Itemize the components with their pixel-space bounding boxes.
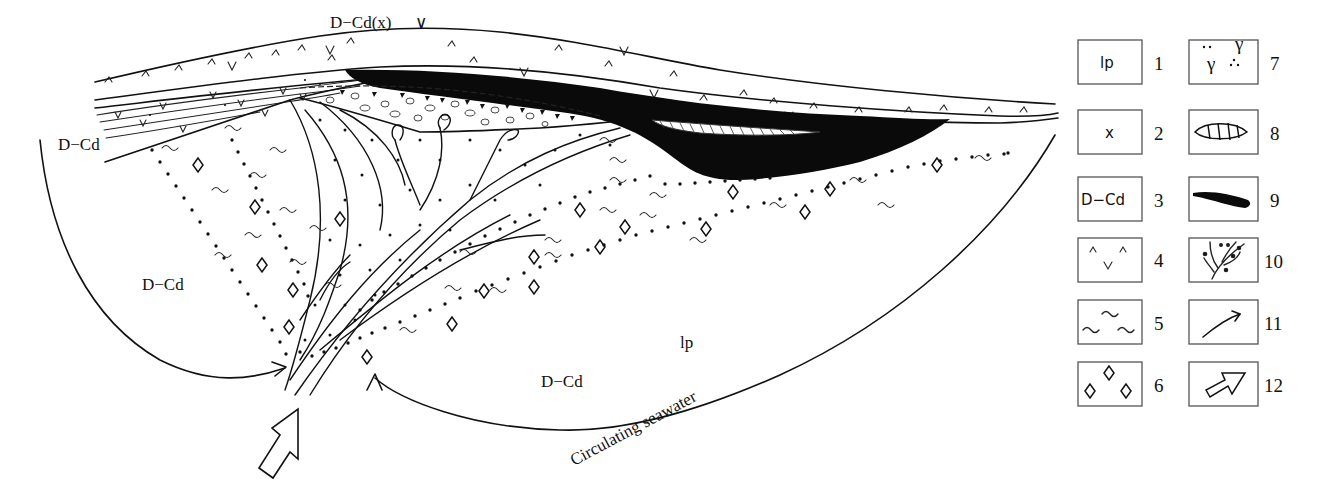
legend-item-8: 8 — [1189, 110, 1280, 154]
legend-symbol-d-cd: D−Cd — [1081, 191, 1125, 209]
legend-num: 5 — [1154, 313, 1164, 334]
flow-arrowhead-left — [272, 362, 286, 376]
legend-num: 4 — [1154, 250, 1164, 271]
legend-item-1: lp 1 — [1078, 40, 1164, 84]
legend-symbol-x: x — [1105, 124, 1114, 142]
svg-text:γ: γ — [1206, 53, 1215, 74]
legend-num: 3 — [1154, 190, 1164, 211]
legend-item-2: x 2 — [1078, 110, 1164, 154]
hydrothermal-upflow-arrow — [259, 409, 298, 478]
label-top-volcanic: D−Cd(x) — [330, 13, 392, 32]
svg-text:γ: γ — [1234, 33, 1243, 54]
legend-num: 10 — [1264, 251, 1283, 272]
legend-item-5: 5 — [1078, 300, 1164, 344]
legend-num: 11 — [1264, 313, 1282, 334]
legend-num: 1 — [1154, 53, 1164, 74]
legend-num: 12 — [1264, 375, 1283, 396]
stratified-tuff-layers — [97, 78, 380, 162]
label-left-upper: D−Cd — [58, 135, 100, 154]
label-left-lower: D−Cd — [142, 275, 184, 294]
legend-num: 7 — [1270, 53, 1280, 74]
label-circulating-seawater: Circulating seawater — [567, 387, 700, 470]
label-bottom-right: lp — [680, 333, 693, 352]
legend-symbol-lp: lp — [1100, 54, 1114, 72]
legend-item-7: γ γ 7 — [1189, 33, 1280, 84]
legend-num: 6 — [1154, 375, 1164, 396]
alteration-dotted-lines — [150, 138, 1009, 357]
legend: lp 1 x 2 D−Cd 3 4 5 — [1078, 33, 1283, 406]
legend-item-12: 12 — [1189, 362, 1283, 406]
stockwork-core-dots — [304, 119, 612, 342]
legend-num: 9 — [1270, 190, 1280, 211]
legend-num: 8 — [1270, 123, 1280, 144]
diamond-alteration-marks — [193, 158, 942, 364]
legend-item-9: 9 — [1189, 177, 1280, 221]
geological-cross-section: D−Cd(x) ∨ D−Cd D−Cd D−Cd lp Circulating … — [0, 0, 1323, 502]
legend-item-6: 6 — [1078, 362, 1164, 406]
stockwork-veins — [285, 100, 630, 395]
legend-item-10: 10 — [1189, 238, 1283, 282]
label-bottom-center: D−Cd — [541, 372, 583, 391]
label-v-mark: ∨ — [415, 13, 427, 32]
legend-item-4: 4 — [1078, 238, 1164, 282]
legend-num: 2 — [1154, 123, 1164, 144]
legend-item-3: D−Cd 3 — [1078, 177, 1164, 221]
legend-item-11: 11 — [1189, 300, 1282, 344]
